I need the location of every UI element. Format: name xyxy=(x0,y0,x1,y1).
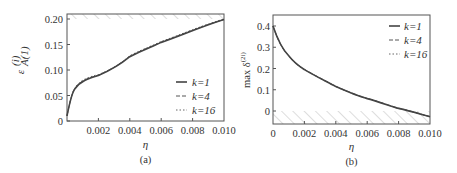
y-tick-label: 0 xyxy=(265,106,270,117)
legend-label: k=16 xyxy=(404,48,428,60)
chart-panel-b: 0 0.1 0.2 0.3 0.4 0 0.002 0.004 0.006 0.… xyxy=(239,15,442,168)
x-tick-label: 0.006 xyxy=(355,128,379,139)
x-tick-label: 0.008 xyxy=(387,128,411,139)
x-tick-label: 0.006 xyxy=(149,125,173,136)
panel-label: (b) xyxy=(345,156,358,168)
y-tick-label: 0.3 xyxy=(257,42,270,53)
x-tick-label: 0.010 xyxy=(418,128,442,139)
chart-panel-a: 0 0.05 0.10 0.15 0.20 0.002 0.004 0.006 … xyxy=(9,14,236,166)
y-axis-label: ε A(1) (i) xyxy=(9,46,31,74)
x-tick-label: 0.002 xyxy=(87,125,111,136)
svg-text:max δ(2i): max δ(2i) xyxy=(239,51,252,87)
y-tick-label: 0.20 xyxy=(45,14,63,25)
y-axis-label-text: max δ xyxy=(241,62,252,88)
legend: k=1 k=4 k=16 xyxy=(176,76,216,116)
x-tick-label: 0 xyxy=(270,128,275,139)
svg-text:(i): (i) xyxy=(9,55,22,66)
svg-text:ε: ε xyxy=(14,69,26,74)
x-tick-label: 0.004 xyxy=(118,125,142,136)
y-tick-label: 0.05 xyxy=(45,91,63,102)
legend-label: k=1 xyxy=(192,76,210,88)
legend: k=1 k=4 k=16 xyxy=(389,20,428,60)
figure: 0 0.05 0.10 0.15 0.20 0.002 0.004 0.006 … xyxy=(0,0,457,173)
y-tick-label: 0.1 xyxy=(257,85,270,96)
hatched-region xyxy=(273,111,430,124)
legend-label: k=1 xyxy=(404,20,422,32)
y-tick-label: 0.2 xyxy=(257,64,270,75)
legend-label: k=16 xyxy=(192,104,216,116)
x-tick-label: 0.002 xyxy=(293,128,317,139)
y-tick-label: 0.4 xyxy=(257,21,271,32)
x-axis-label: η xyxy=(349,140,354,152)
x-tick-label: 0.004 xyxy=(324,128,348,139)
y-tick-label: 0.10 xyxy=(45,65,63,76)
x-axis-label: η xyxy=(143,138,148,150)
x-tick-label: 0.008 xyxy=(181,125,205,136)
legend-label: k=4 xyxy=(192,90,210,102)
y-axis-label-sup: (2i) xyxy=(239,51,247,62)
panel-label: (a) xyxy=(140,154,152,166)
y-axis-label: max δ(2i) xyxy=(239,51,252,87)
y-tick-label: 0 xyxy=(58,116,63,127)
y-tick-label: 0.15 xyxy=(45,40,63,51)
x-tick-label: 0.010 xyxy=(212,125,236,136)
hatched-region xyxy=(67,14,224,19)
legend-label: k=4 xyxy=(404,34,422,46)
